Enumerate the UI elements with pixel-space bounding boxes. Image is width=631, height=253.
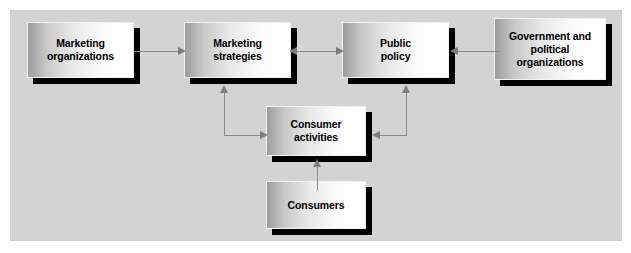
connector-mktstrat-publicpolicy-line — [296, 51, 340, 52]
connector-consumers-to-consumeract-arrowhead — [313, 159, 321, 167]
node-marketing-organizations-line2: organizations — [47, 50, 114, 63]
connector-consumeract-mktstrat-arrowhead-up — [220, 85, 228, 93]
node-marketing-organizations-line1: Marketing — [47, 37, 114, 50]
node-consumers-line1: Consumers — [288, 199, 345, 212]
connector-consumeract-publicpolicy-vertical — [406, 92, 407, 136]
node-government-and-political-organizations[interactable]: Government and political organizations — [494, 18, 606, 80]
node-marketing-strategies-line2: strategies — [213, 50, 262, 63]
connector-consumers-to-consumeract-line — [317, 166, 318, 190]
connector-consumeract-publicpolicy-arrowhead-left — [372, 131, 380, 139]
node-public-policy[interactable]: Public policy — [342, 22, 449, 78]
connector-consumeract-mktstrat-arrowhead-right — [260, 131, 268, 139]
node-government-line3: organizations — [509, 56, 591, 69]
connector-mktorg-to-mktstrat-line — [134, 51, 182, 52]
node-consumer-activities-line2: activities — [290, 131, 341, 144]
node-public-policy-line1: Public — [380, 37, 411, 50]
node-marketing-strategies-line1: Marketing — [213, 37, 262, 50]
node-government-line2: political — [509, 43, 591, 56]
node-consumer-activities-line1: Consumer — [290, 118, 341, 131]
diagram-canvas: Marketing organizations Marketing strate… — [0, 0, 631, 253]
connector-government-to-publicpolicy-arrowhead — [450, 47, 458, 55]
connector-mktstrat-publicpolicy-arrowhead-right — [336, 47, 344, 55]
node-marketing-organizations[interactable]: Marketing organizations — [27, 22, 134, 78]
node-marketing-strategies[interactable]: Marketing strategies — [184, 22, 291, 78]
connector-consumeract-publicpolicy-horizontal — [378, 135, 407, 136]
connector-mktorg-to-mktstrat-arrowhead — [178, 47, 186, 55]
connector-mktstrat-publicpolicy-arrowhead-left — [289, 47, 297, 55]
connector-consumeract-publicpolicy-arrowhead-up — [402, 85, 410, 93]
node-government-line1: Government and — [509, 30, 591, 43]
connector-government-to-publicpolicy-line — [457, 51, 500, 52]
node-consumer-activities[interactable]: Consumer activities — [266, 106, 366, 156]
node-public-policy-line2: policy — [380, 50, 411, 63]
connector-consumeract-mktstrat-vertical — [224, 92, 225, 136]
node-consumers[interactable]: Consumers — [266, 181, 366, 229]
